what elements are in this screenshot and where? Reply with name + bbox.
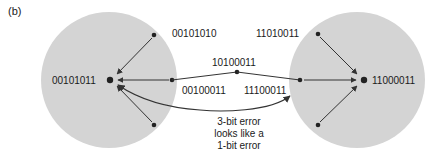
- left-center-label: 00101011: [52, 76, 96, 86]
- error-annotation: 3-bit error looks like a 1-bit error: [204, 116, 274, 152]
- right-center-label: 11000011: [372, 76, 415, 86]
- right-left-neighbor-label: 11100011: [244, 86, 286, 96]
- left-center-point: [107, 77, 113, 83]
- left-top-neighbor-label: 00101010: [172, 29, 217, 39]
- left-right-neighbor-label: 00100011: [182, 86, 226, 96]
- right-top-neighbor-label: 11010011: [256, 29, 299, 39]
- right-center-point: [361, 77, 367, 83]
- midpoint-label: 10100011: [212, 58, 256, 68]
- panel-label: (b): [8, 6, 21, 17]
